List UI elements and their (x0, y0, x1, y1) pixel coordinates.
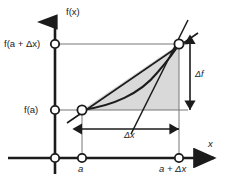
x-label-a: a (78, 164, 83, 174)
x-label-a-plus-dx: a + Δx (159, 164, 186, 174)
y-label-upper: f(a + Δx) (4, 39, 40, 49)
figure-canvas (0, 0, 231, 182)
difference-quotient-figure: f(x) x f(a + Δx) f(a) a a + Δx Δx Δf (0, 0, 231, 182)
annotation-delta-f: Δf (195, 70, 204, 79)
y-label-lower: f(a) (24, 105, 38, 115)
marker-x-a-plus-dx (175, 154, 183, 162)
y-axis-label: f(x) (66, 7, 80, 17)
marker-y-upper (51, 40, 59, 48)
marker-point-a-plus-dx (174, 39, 183, 48)
shaded-region (82, 44, 179, 110)
marker-x-a (78, 154, 86, 162)
annotation-delta-x: Δx (124, 131, 135, 140)
marker-y-lower (51, 106, 59, 114)
x-axis-label: x (208, 139, 213, 149)
marker-point-a (77, 105, 86, 114)
marker-origin (51, 154, 59, 162)
